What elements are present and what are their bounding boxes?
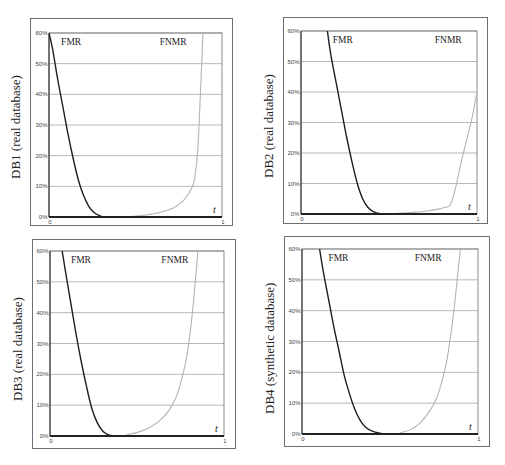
chart-panel-db4 [284, 236, 490, 447]
chart-panel-db1 [30, 18, 233, 226]
chart-panel-db3 [32, 239, 236, 449]
y-axis-title: DB3 (real database) [10, 297, 26, 401]
y-axis-title: DB4 (synthetic database) [262, 282, 278, 413]
y-axis-title: DB2 (real database) [261, 74, 277, 178]
y-axis-title: DB1 (real database) [8, 75, 24, 179]
chart-panel-db2 [283, 17, 488, 224]
